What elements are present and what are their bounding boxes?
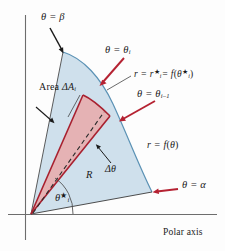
leader-line-icon-r-star: [107, 76, 131, 90]
label-theta-equals-theta-i-minus-1: θ = θi–1: [137, 89, 170, 100]
label-r-equals-f-theta: r = f(θ): [147, 140, 179, 150]
label-delta-theta: Δθ: [105, 164, 116, 174]
arrow-left-icon-alpha: [153, 189, 179, 195]
arrow-down-left-icon-theta-i-minus-1: [119, 101, 155, 122]
label-theta-equals-beta: θ = β: [41, 12, 65, 23]
arrow-down-right-icon-beta: [50, 28, 64, 54]
label-polar-axis: Polar axis: [163, 228, 203, 238]
label-r-equals-r-star: r = r★i= f(θ★i): [134, 69, 193, 80]
polar-area-diagram: θ = β θ = θi r = r★i= f(θ★i) θ = θi–1 Ar…: [0, 0, 225, 251]
label-theta-equals-theta-i: θ = θi: [105, 45, 131, 56]
label-area-delta-a-i: Area ΔAi: [39, 82, 76, 93]
label-theta-equals-alpha: θ = α: [182, 180, 206, 191]
label-theta-star-i: θ★i: [55, 192, 70, 204]
diagram-canvas: [0, 0, 225, 251]
label-region-R: R: [86, 170, 93, 181]
